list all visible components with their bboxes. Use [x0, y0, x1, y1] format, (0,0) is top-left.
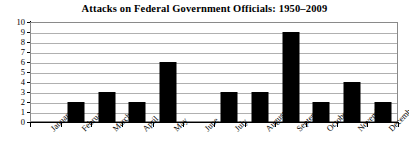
x-axis-tick-mark [30, 123, 31, 127]
x-axis-tick-labels: JanuaryFebruaryMarchAprilMayJuneJulyAugu… [30, 127, 398, 168]
y-axis-tick-labels: 012345678910 [0, 22, 28, 122]
y-axis-tick-label: 1 [21, 108, 25, 117]
x-axis-tick-mark [122, 123, 123, 127]
bar-slot [122, 22, 153, 122]
x-axis-tick-mark [61, 123, 62, 127]
x-axis-tick-mark [183, 123, 184, 127]
bar [221, 92, 238, 122]
bar-slot [61, 22, 92, 122]
bar-slot [153, 22, 184, 122]
y-axis-tick-label: 3 [21, 88, 25, 97]
x-axis-tick-mark [337, 123, 338, 127]
x-axis-tick-label: July [233, 127, 239, 133]
y-axis-tick-label: 8 [21, 38, 25, 47]
y-axis-tick-label: 6 [21, 58, 25, 67]
x-axis-tick-label: August [264, 127, 270, 133]
y-axis-tick-label: 7 [21, 48, 25, 57]
x-axis-tick-label: February [80, 127, 86, 133]
x-axis-tick-label: January [49, 127, 55, 133]
x-axis-tick-label: March [111, 127, 117, 133]
x-axis-tick-mark [245, 123, 246, 127]
x-axis-tick-label: April [141, 127, 147, 133]
bar-slot [30, 22, 61, 122]
bar [251, 92, 268, 122]
bar [282, 32, 299, 122]
x-axis-tick-label: November [356, 127, 362, 133]
bar-chart-figure: Attacks on Federal Government Officials:… [0, 0, 409, 168]
x-axis-tick-label: December [387, 127, 393, 133]
x-axis-tick-label: September [295, 127, 301, 133]
x-axis-tick-mark [91, 123, 92, 127]
x-axis-tick-mark [306, 123, 307, 127]
x-axis-tick-label: May [172, 127, 178, 133]
bar-slot [214, 22, 245, 122]
y-axis-tick-label: 9 [21, 28, 25, 37]
x-axis-tick-mark [398, 123, 399, 127]
x-axis-tick-mark [153, 123, 154, 127]
x-axis-tick-mark [275, 123, 276, 127]
bar-slot [183, 22, 214, 122]
bar-slot [91, 22, 122, 122]
x-axis-tick-label: October [325, 127, 331, 133]
y-axis-tick-label: 10 [17, 18, 26, 27]
y-axis-tick-label: 5 [21, 68, 25, 77]
bar-slot [275, 22, 306, 122]
y-axis-tick-label: 2 [21, 98, 25, 107]
bar-slot [245, 22, 276, 122]
bar-slot [337, 22, 368, 122]
x-axis-tick-mark [214, 123, 215, 127]
x-axis-tick-mark [367, 123, 368, 127]
chart-title: Attacks on Federal Government Officials:… [0, 3, 409, 14]
y-axis-tick-label: 4 [21, 78, 25, 87]
x-axis-tick-label: June [203, 127, 209, 133]
y-axis-tick-label: 0 [21, 118, 25, 127]
bar [159, 62, 176, 122]
